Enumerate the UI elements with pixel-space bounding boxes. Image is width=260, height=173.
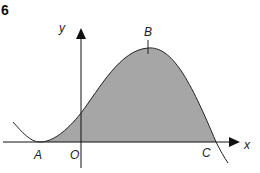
- origin-label: O: [70, 148, 79, 162]
- point-b-label: B: [144, 25, 152, 39]
- curve-diagram: 6 y x A O B C: [0, 0, 260, 173]
- point-c-label: C: [202, 146, 211, 160]
- y-axis-label: y: [58, 21, 66, 35]
- y-axis-arrow-icon: [76, 28, 86, 39]
- point-a-label: A: [33, 148, 42, 162]
- x-axis-label: x: [243, 138, 251, 152]
- question-number: 6: [1, 2, 9, 18]
- x-axis-arrow-icon: [229, 137, 240, 147]
- shaded-region: [40, 48, 216, 142]
